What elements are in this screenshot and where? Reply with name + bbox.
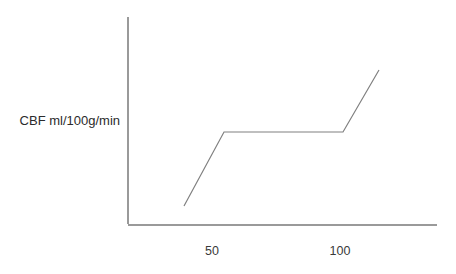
x-tick-label-100: 100 (330, 244, 351, 258)
y-axis-label: CBF ml/100g/min (20, 113, 120, 128)
x-tick-label-50: 50 (205, 244, 219, 258)
chart-background (0, 0, 456, 274)
chart-container: CBF ml/100g/min 50 100 (0, 0, 456, 274)
cbf-autoregulation-chart: CBF ml/100g/min 50 100 (0, 0, 456, 274)
